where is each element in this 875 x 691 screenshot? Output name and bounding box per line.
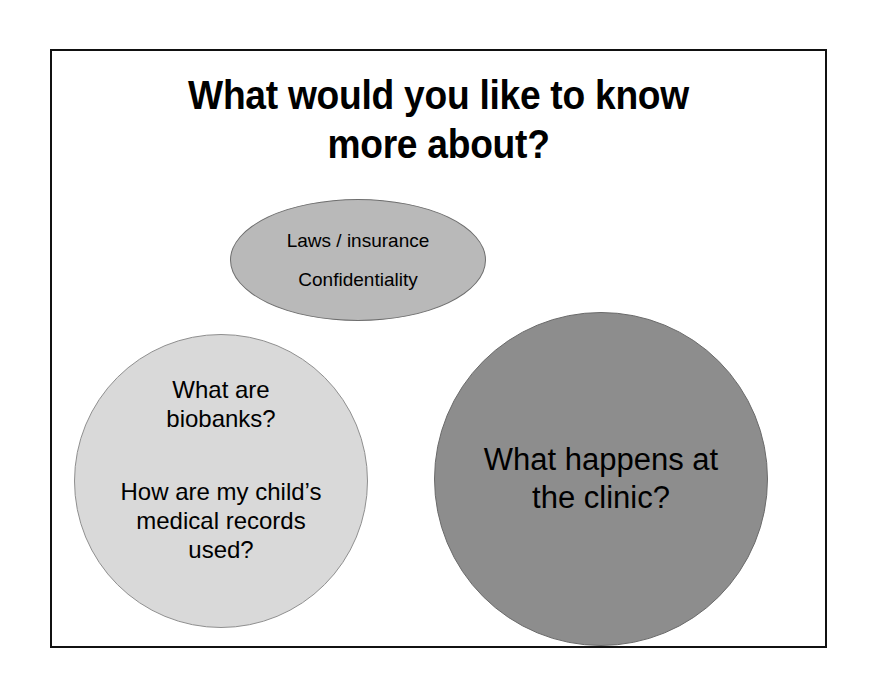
bubble-clinic: What happens at the clinic? <box>434 312 768 646</box>
page-title: What would you like to know more about? <box>79 71 798 169</box>
bubble-laws-insurance: Laws / insurance Confidentiality <box>230 199 486 321</box>
bubble-clinic-line-1: What happens at the clinic? <box>484 441 718 517</box>
bubble-laws-line-1: Laws / insurance <box>287 230 430 252</box>
bubble-laws-line-2: Confidentiality <box>298 269 417 291</box>
bubble-biobanks: What are biobanks? How are my child’s me… <box>74 334 368 628</box>
bubble-biobanks-line-1: What are biobanks? <box>166 375 275 433</box>
slide-frame: What would you like to know more about? … <box>50 49 827 648</box>
bubble-biobanks-line-2: How are my child’s medical records used? <box>121 477 322 564</box>
